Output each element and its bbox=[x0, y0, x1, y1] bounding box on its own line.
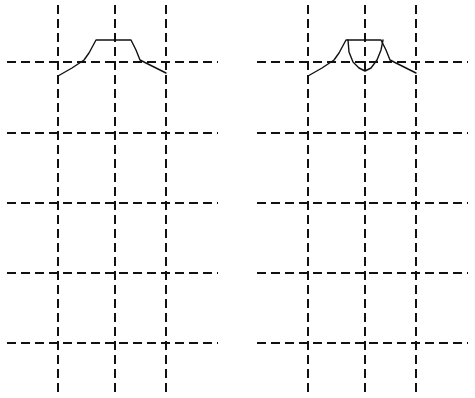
diagram-canvas bbox=[0, 0, 475, 398]
left-panel bbox=[7, 5, 218, 393]
right-panel bbox=[257, 5, 468, 393]
outer-bump-curve bbox=[58, 40, 166, 76]
outer-bump-curve bbox=[308, 40, 416, 76]
